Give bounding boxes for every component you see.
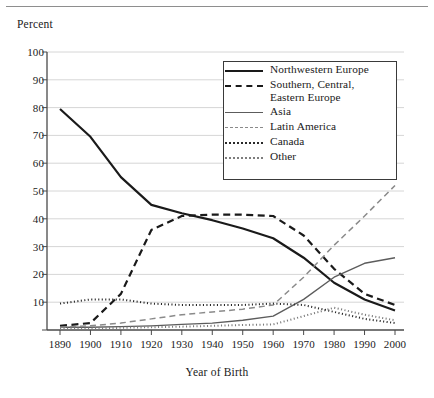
legend-item: Southern, Central, Eastern Europe (225, 78, 393, 104)
legend-line-swatch (225, 79, 263, 92)
legend-item: Northwestern Europe (225, 63, 393, 77)
legend-item: Other (225, 150, 393, 164)
chart-figure: Percent 102030405060708090100 1890190019… (0, 0, 434, 398)
legend-item: Canada (225, 135, 393, 149)
legend-line-swatch (225, 64, 263, 77)
plot-area (0, 0, 434, 398)
legend-item: Latin America (225, 120, 393, 134)
legend-line-swatch (225, 121, 263, 134)
legend-item-label: Other (270, 150, 296, 163)
legend-line-swatch (225, 136, 263, 149)
legend-line-swatch (225, 106, 263, 119)
legend-item-label: Asia (270, 105, 291, 118)
legend-item-label: Northwestern Europe (270, 63, 369, 76)
legend-item-label: Canada (270, 135, 304, 148)
legend: Northwestern EuropeSouthern, Central, Ea… (225, 63, 393, 165)
legend-item-label: Latin America (270, 120, 336, 133)
legend-item-label: Southern, Central, Eastern Europe (270, 78, 354, 104)
legend-line-swatch (225, 151, 263, 164)
x-axis-title: Year of Birth (0, 366, 434, 378)
legend-item: Asia (225, 105, 393, 119)
